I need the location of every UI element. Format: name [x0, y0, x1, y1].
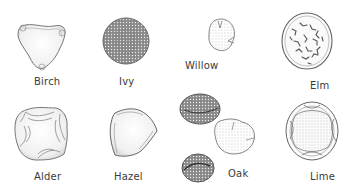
willow-label: Willow [185, 60, 219, 71]
hazel-label: Hazel [114, 171, 143, 182]
alder-pollen-illustration [10, 104, 72, 164]
elm-pollen-illustration [280, 11, 334, 73]
lime-label: Lime [310, 171, 335, 182]
ivy-label: Ivy [119, 76, 134, 87]
birch-pollen-illustration [14, 18, 74, 74]
birch-label: Birch [34, 76, 60, 87]
oak-label: Oak [228, 168, 248, 179]
alder-label: Alder [34, 171, 61, 182]
hazel-pollen-illustration [107, 105, 159, 159]
ivy-pollen-illustration [101, 15, 151, 67]
willow-pollen-illustration [206, 17, 238, 53]
lime-pollen-illustration [284, 99, 340, 163]
elm-label: Elm [310, 80, 329, 91]
